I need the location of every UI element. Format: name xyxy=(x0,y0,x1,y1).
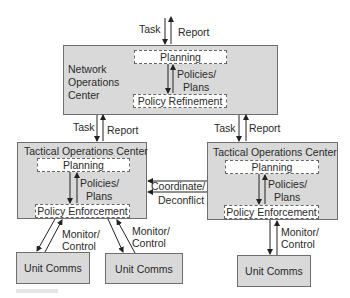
connector-arrows xyxy=(0,0,350,298)
monitor-down-arrow-2 xyxy=(108,219,123,252)
monitor-up-arrow-2 xyxy=(117,220,135,253)
monitor-down-arrow-1 xyxy=(37,219,55,251)
monitor-up-arrow-1 xyxy=(45,220,62,252)
